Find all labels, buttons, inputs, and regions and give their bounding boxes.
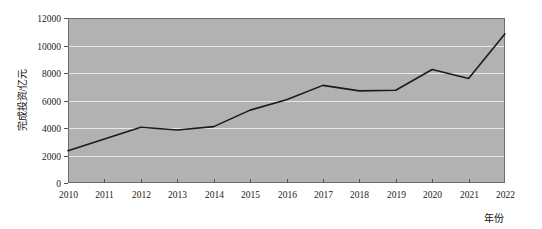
y-tick-label-2000: 2000 [42,152,61,162]
x-tick-label-2016: 2016 [278,190,297,200]
y-tick-label-8000: 8000 [42,69,61,79]
y-tick-label-10000: 10000 [37,42,61,52]
chart-canvas: 020004000600080001000012000 201020112012… [0,0,542,229]
y-axis-title: 完成投资/亿元 [16,69,28,132]
x-tick-label-2019: 2019 [387,190,406,200]
x-tick-label-2012: 2012 [132,190,151,200]
x-tick-label-2014: 2014 [205,190,224,200]
y-tick-label-4000: 4000 [42,124,61,134]
x-axis-title: 年份 [484,212,504,224]
x-tick-label-2022: 2022 [496,190,515,200]
x-tick-label-2018: 2018 [350,190,369,200]
x-tick-label-2015: 2015 [241,190,260,200]
x-tick-label-2021: 2021 [460,190,479,200]
y-tick-label-0: 0 [56,179,61,189]
x-tick-label-2020: 2020 [423,190,442,200]
y-tick-label-12000: 12000 [37,14,61,24]
x-tick-label-2010: 2010 [59,190,78,200]
x-tick-label-2013: 2013 [168,190,187,200]
x-tick-label-2017: 2017 [314,190,333,200]
x-tick-label-2011: 2011 [95,190,114,200]
line-chart: 020004000600080001000012000 201020112012… [0,0,542,229]
y-tick-label-6000: 6000 [42,97,61,107]
